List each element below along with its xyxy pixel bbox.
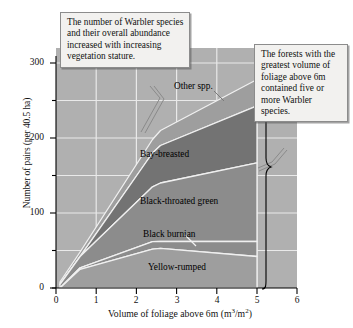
series-label-yellow-rumped: Yellow-rumped	[148, 262, 206, 273]
x-tick-label-5: 5	[247, 295, 267, 305]
x-tick-label-6: 6	[287, 295, 307, 305]
x-tick-label-1: 1	[86, 295, 106, 305]
callout-right: The forests with the greatest volume of …	[254, 44, 348, 122]
series-label-other-spp: Other spp.	[174, 81, 213, 92]
series-label-black-burnian: Black burnian	[143, 229, 195, 240]
x-ticks	[56, 288, 297, 294]
y-axis-label: Number of pairs (per 40.5 ha)	[22, 48, 32, 258]
y-tick-label-100: 100	[16, 207, 44, 217]
x-tick-label-0: 0	[46, 295, 66, 305]
x-axis-label-prefix: Volume of foliage above 6m (m	[108, 308, 231, 319]
callout-leader-left	[141, 86, 164, 133]
x-tick-label-2: 2	[126, 295, 146, 305]
callout-leader-right	[258, 148, 287, 171]
callout-right-text: The forests with the greatest volume of …	[261, 49, 342, 117]
x-axis-label: Volume of foliage above 6m (m3/m2)	[40, 307, 320, 319]
x-axis-label-suffix: )	[249, 308, 252, 319]
callout-left-text: The number of Warbler species and their …	[67, 17, 184, 63]
y-axis-label-wrap: Number of pairs (per 40.5 ha)	[0, 0, 30, 300]
figure-root: Number of pairs (per 40.5 ha) 0 100 200 …	[0, 0, 353, 328]
x-tick-label-4: 4	[207, 295, 227, 305]
callout-left: The number of Warbler species and their …	[60, 12, 190, 68]
y-tick-label-200: 200	[16, 132, 44, 142]
x-tick-label-3: 3	[167, 295, 187, 305]
y-tick-label-300: 300	[16, 57, 44, 67]
series-label-black-throated-green: Black-throated green	[140, 196, 220, 207]
y-ticks	[50, 63, 56, 288]
y-tick-label-0: 0	[16, 282, 44, 292]
series-label-bay-breasted: Bay-breasted	[140, 149, 189, 160]
x-axis-label-mid: /m	[235, 308, 245, 319]
